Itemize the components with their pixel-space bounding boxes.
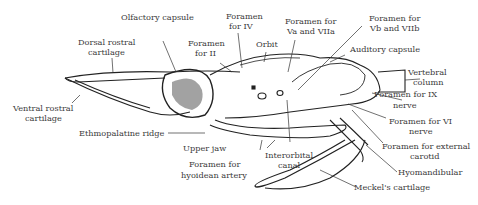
label-orbit: Orbit <box>256 40 278 50</box>
label-auditory-capsule: Auditory capsule <box>350 45 420 55</box>
label-upper-jaw: Upper jaw <box>183 144 226 154</box>
label-olfactory-capsule: Olfactory capsule <box>121 13 194 23</box>
label-foramen-hyoidean-1: Foramen for <box>189 160 240 170</box>
label-foramen-ii-2: for II <box>195 49 216 59</box>
label-vertebral-2: column <box>413 78 443 88</box>
label-meckels-cartilage: Meckel's cartilage <box>354 183 430 193</box>
label-foramen-iv-2: for IV <box>229 22 253 32</box>
label-foramen-ix-2: nerve <box>393 101 417 111</box>
label-foramen-vb-2: Vb and VIIb <box>370 24 419 34</box>
label-interorbital-2: canal <box>278 161 300 171</box>
label-ethmopalatine-ridge: Ethmopalatine ridge <box>79 129 164 139</box>
label-foramen-va-2: Va and VIIa <box>287 27 335 37</box>
label-hyomandibular: Hyomandibular <box>398 168 462 178</box>
label-foramen-vi-2: nerve <box>409 127 433 137</box>
label-foramen-external-carotid-2: carotid <box>410 152 439 162</box>
label-foramen-hyoidean-2: hyoidean artery <box>181 171 247 181</box>
label-ventral-rostral-2: cartilage <box>25 114 62 124</box>
label-dorsal-rostral-2: cartilage <box>88 48 125 58</box>
label-foramen-ix-1: Foramen for IX <box>374 90 437 100</box>
